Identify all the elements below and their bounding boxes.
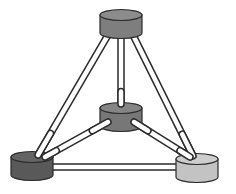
node-cylinder-bottom-right xyxy=(176,154,218,183)
diagram-svg xyxy=(0,0,236,194)
node-cylinder-top xyxy=(100,10,142,39)
tetrahedral-network-diagram xyxy=(0,0,236,194)
edges-layer xyxy=(38,35,193,167)
cylinder-cap xyxy=(100,10,142,21)
